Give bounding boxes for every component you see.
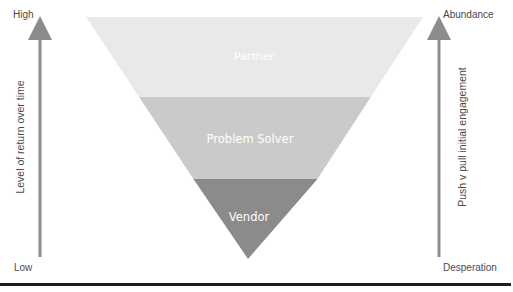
right-axis-top-label: Abundance: [443, 9, 494, 20]
funnel-diagram: [0, 0, 513, 292]
funnel-label-partner: Partner: [234, 50, 274, 63]
left-axis-top-label: High: [13, 9, 34, 20]
funnel-label-vendor: Vendor: [229, 210, 269, 224]
funnel-label-problem-solver: Problem Solver: [207, 132, 294, 146]
left-axis-title: Level of return over time: [14, 77, 26, 197]
right-axis-bottom-label: Desperation: [443, 262, 497, 273]
left-axis-bottom-label: Low: [14, 262, 32, 273]
right-axis-title: Push v pull initial engagement: [456, 62, 468, 212]
bottom-divider: [0, 283, 511, 286]
